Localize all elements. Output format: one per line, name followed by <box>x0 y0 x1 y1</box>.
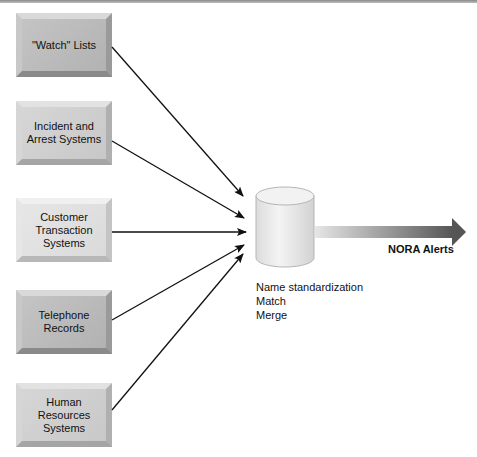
arrow-incident-arrest <box>112 141 244 218</box>
arrow-watch-lists <box>112 47 243 196</box>
output-arrow-icon <box>315 218 466 246</box>
diagram-canvas <box>0 0 477 457</box>
connector-arrows <box>112 47 246 410</box>
arrow-telephone-records <box>112 245 244 320</box>
caption-line-standardization: Name standardization <box>256 280 363 294</box>
output-label: NORA Alerts <box>388 243 454 255</box>
hub-caption: Name standardization Match Merge <box>256 280 363 322</box>
database-cylinder-icon <box>256 187 314 267</box>
arrow-human-resources <box>112 254 243 410</box>
caption-line-match: Match <box>256 294 363 308</box>
caption-line-merge: Merge <box>256 308 363 322</box>
